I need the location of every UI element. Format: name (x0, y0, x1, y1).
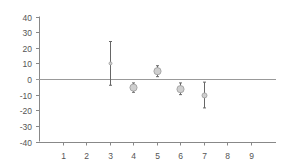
point-marker (109, 62, 112, 65)
data-point (130, 83, 137, 92)
point-marker (130, 84, 137, 91)
data-point (177, 83, 184, 95)
y-tick-label: 40 (23, 13, 33, 23)
data-point (202, 82, 207, 108)
x-tick-label: 2 (84, 151, 89, 161)
data-points (109, 42, 207, 108)
x-tick-label: 4 (131, 151, 136, 161)
y-tick-label: 20 (23, 44, 33, 54)
data-point (109, 42, 112, 86)
y-tick-label: 30 (23, 28, 33, 38)
y-tick-label: -30 (20, 122, 33, 132)
x-tick-label: 5 (155, 151, 160, 161)
scatter-chart: 403020100-10-20-30-40 123456789 (0, 0, 289, 167)
y-tick-label: -20 (20, 106, 33, 116)
x-tick-label: 9 (249, 151, 254, 161)
x-tick-label: 6 (178, 151, 183, 161)
x-tick-label: 1 (61, 151, 66, 161)
x-tick-label: 7 (202, 151, 207, 161)
point-marker (154, 68, 161, 75)
y-tick-label: -10 (20, 91, 33, 101)
x-tick-label: 8 (225, 151, 230, 161)
y-tick-label: 10 (23, 59, 33, 69)
y-tick-label: 0 (27, 75, 32, 85)
x-axis: 123456789 (39, 143, 276, 161)
x-tick-label: 3 (108, 151, 113, 161)
data-point (154, 66, 161, 77)
y-tick-label: -40 (20, 138, 33, 148)
point-marker (177, 86, 184, 93)
point-marker (202, 93, 207, 98)
